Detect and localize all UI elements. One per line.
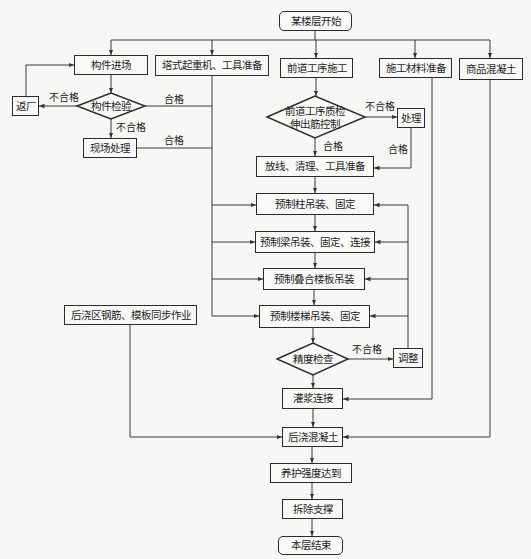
node-start: 某楼层开始 — [279, 11, 352, 31]
diamond-prev-quality-check-line2: 伸出筋控制 — [290, 119, 340, 130]
node-grouting-label: 灌浆连接 — [293, 393, 333, 404]
node-curing-label: 养护强度达到 — [281, 468, 341, 479]
node-layout-clean-prep: 放线、清理、工具准备 — [256, 156, 374, 177]
node-component-arrival: 构件进场 — [74, 55, 148, 75]
edge-rebar-to-postpour — [130, 325, 282, 437]
node-prev-process-label: 前道工序施工 — [287, 63, 347, 74]
node-stair-hoist-label: 预制楼梯吊装、固定 — [270, 311, 360, 322]
node-onsite-treatment-label: 现场处理 — [90, 143, 130, 154]
edge-label-inspection-pass: 合格 — [164, 95, 184, 105]
node-return-factory-label: 返厂 — [16, 101, 36, 112]
diamond-prev-quality-check-line1: 前道工序质检 — [285, 106, 345, 117]
edge-concrete-to-postpour — [343, 80, 490, 437]
node-post-pour-concrete: 后浇混凝土 — [282, 427, 343, 447]
edge-label-treatment-pass: 合格 — [388, 145, 408, 155]
node-slab-hoist: 预制叠合楼板吊装 — [263, 268, 365, 290]
node-stair-hoist: 预制楼梯吊装、固定 — [259, 305, 370, 328]
node-post-pour-rebar-formwork-label: 后浇区钢筋、模板同步作业 — [71, 310, 191, 321]
node-layout-clean-prep-label: 放线、清理、工具准备 — [265, 161, 365, 172]
node-adjust: 调整 — [393, 348, 423, 368]
node-material-prep-label: 施工材料准备 — [386, 63, 446, 74]
node-tower-crane-prep-label: 塔式起重机、工具准备 — [162, 60, 262, 71]
node-column-hoist-label: 预制柱吊装、固定 — [275, 199, 355, 210]
node-component-arrival-label: 构件进场 — [91, 60, 131, 71]
flowchart-canvas: 某楼层开始 构件进场 塔式起重机、工具准备 前道工序施工 施工材料准备 商品混凝… — [0, 0, 531, 559]
edge-label-inspection-fail-return: 不合格 — [49, 93, 79, 103]
edge-label-quality-pass: 合格 — [323, 142, 343, 152]
node-treatment: 处理 — [397, 108, 425, 128]
node-adjust-label: 调整 — [398, 353, 418, 364]
node-beam-hoist-label: 预制梁吊装、固定、连接 — [260, 237, 370, 248]
node-post-pour-rebar-formwork: 后浇区钢筋、模板同步作业 — [64, 305, 197, 325]
node-post-pour-concrete-label: 后浇混凝土 — [288, 432, 338, 443]
node-end: 本层结束 — [278, 536, 343, 555]
node-slab-hoist-label: 预制叠合楼板吊装 — [274, 274, 354, 285]
node-return-factory: 返厂 — [12, 96, 39, 116]
node-treatment-label: 处理 — [401, 113, 421, 124]
node-column-hoist: 预制柱吊装、固定 — [256, 193, 374, 215]
node-curing: 养护强度达到 — [270, 463, 352, 483]
node-remove-support-label: 拆除支撑 — [293, 504, 333, 515]
edge-label-inspection-fail-onsite: 不合格 — [116, 123, 146, 133]
diamond-component-inspection-label: 构件检验 — [91, 101, 131, 112]
node-tower-crane-prep: 塔式起重机、工具准备 — [155, 55, 269, 76]
node-material-prep: 施工材料准备 — [379, 58, 452, 78]
node-grouting: 灌浆连接 — [282, 388, 343, 409]
node-beam-hoist: 预制梁吊装、固定、连接 — [255, 231, 375, 253]
node-remove-support: 拆除支撑 — [282, 499, 343, 519]
node-ready-mix-concrete: 商品混凝土 — [459, 58, 523, 80]
node-ready-mix-concrete-label: 商品混凝土 — [466, 64, 516, 75]
node-prev-process: 前道工序施工 — [280, 58, 353, 78]
edge-label-onsite-pass: 合格 — [164, 136, 184, 146]
node-onsite-treatment: 现场处理 — [83, 138, 137, 158]
diamond-precision-check-label: 精度检查 — [293, 354, 333, 365]
node-end-label: 本层结束 — [291, 540, 331, 551]
edge-label-precision-fail: 不合格 — [352, 345, 382, 355]
node-start-label: 某楼层开始 — [291, 16, 341, 27]
edge-label-quality-fail: 不合格 — [365, 102, 395, 112]
